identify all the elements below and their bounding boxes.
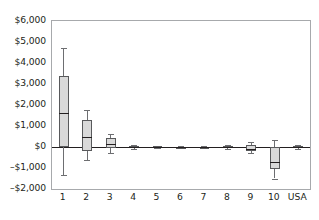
upper-whisker-cap: [108, 134, 114, 135]
y-axis-tick-8: –$2,000: [0, 183, 46, 192]
box-plot-item: [122, 21, 145, 189]
x-axis-tick-labels: 12345678910USA: [51, 192, 311, 210]
y-axis-tick-5: $1,000: [0, 120, 46, 129]
x-axis-tick-9: 9: [247, 192, 253, 202]
box-plot-item: [169, 21, 192, 189]
upper-whisker: [87, 110, 88, 120]
box-plot-item: [193, 21, 216, 189]
x-axis-tick-4: 4: [130, 192, 136, 202]
x-axis-tick-8: 8: [224, 192, 230, 202]
box-plot-chart: $6,000$5,000$4,000$3,000$2,000$1,000$0–$…: [0, 0, 319, 220]
median-line: [129, 147, 139, 148]
y-axis-tick-6: $0: [0, 141, 46, 150]
box-plot-item: [52, 21, 75, 189]
median-line: [293, 147, 303, 148]
median-line: [200, 147, 210, 148]
median-line: [82, 137, 92, 138]
lower-whisker-cap: [272, 179, 278, 180]
lower-whisker-cap: [131, 149, 137, 150]
box-plot-item: [75, 21, 98, 189]
lower-whisker-cap: [61, 175, 67, 176]
box-plot-item: [263, 21, 286, 189]
lower-whisker-cap: [248, 153, 254, 154]
x-axis-tick-3: 3: [107, 192, 113, 202]
x-axis-tick-2: 2: [83, 192, 89, 202]
y-axis-tick-2: $4,000: [0, 57, 46, 66]
median-line: [246, 149, 256, 150]
upper-whisker: [274, 140, 275, 147]
x-axis-tick-6: 6: [177, 192, 183, 202]
plot-area: [51, 20, 311, 190]
lower-whisker: [274, 169, 275, 178]
median-line: [176, 147, 186, 148]
box-plot-item: [240, 21, 263, 189]
upper-whisker: [63, 48, 64, 75]
lower-whisker-cap: [225, 149, 231, 150]
upper-whisker-cap: [248, 142, 254, 143]
box-iqr: [270, 147, 280, 169]
box-plot-item: [287, 21, 310, 189]
x-axis-tick-USA: USA: [288, 192, 307, 202]
x-axis-tick-7: 7: [201, 192, 207, 202]
lower-whisker-cap: [295, 149, 301, 150]
y-axis-tick-labels: $6,000$5,000$4,000$3,000$2,000$1,000$0–$…: [0, 0, 46, 220]
box-plot-item: [216, 21, 239, 189]
median-line: [153, 147, 163, 148]
x-axis-tick-1: 1: [60, 192, 66, 202]
median-line: [223, 147, 233, 148]
y-axis-tick-0: $6,000: [0, 15, 46, 24]
lower-whisker-cap: [154, 148, 160, 149]
box-iqr: [59, 76, 69, 147]
lower-whisker-cap: [84, 160, 90, 161]
lower-whisker: [87, 151, 88, 160]
box-plot-item: [99, 21, 122, 189]
lower-whisker-cap: [108, 153, 114, 154]
upper-whisker-cap: [84, 110, 90, 111]
lower-whisker: [63, 147, 64, 175]
median-line: [59, 113, 69, 114]
x-axis-tick-5: 5: [154, 192, 160, 202]
box-iqr: [246, 145, 256, 151]
y-axis-tick-1: $5,000: [0, 36, 46, 45]
x-axis-tick-10: 10: [268, 192, 280, 202]
y-axis-tick-4: $2,000: [0, 99, 46, 108]
y-axis-tick-7: –$1,000: [0, 162, 46, 171]
median-line: [106, 144, 116, 145]
y-axis-tick-3: $3,000: [0, 78, 46, 87]
upper-whisker-cap: [272, 140, 278, 141]
box-iqr: [82, 120, 92, 151]
upper-whisker-cap: [61, 48, 67, 49]
median-line: [270, 162, 280, 163]
box-plot-item: [146, 21, 169, 189]
